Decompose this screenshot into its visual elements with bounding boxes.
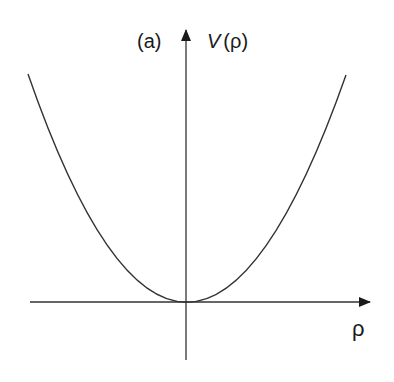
- y-axis-label-main: V: [207, 30, 222, 52]
- x-axis-label: ρ: [352, 316, 365, 341]
- y-axis-label-arg: (ρ): [223, 30, 248, 52]
- panel-label: (a): [137, 30, 161, 52]
- y-axis-label: V(ρ): [207, 30, 248, 52]
- potential-curve: [28, 74, 346, 302]
- potential-diagram: (a) V(ρ) ρ: [0, 0, 394, 382]
